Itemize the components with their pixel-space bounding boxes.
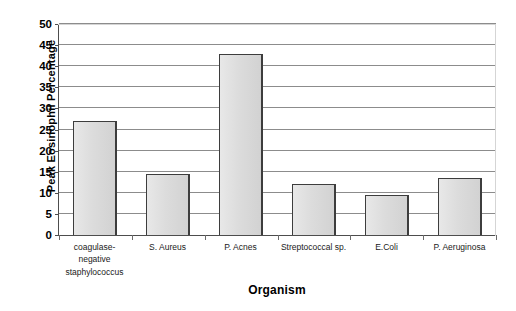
category-tick — [132, 235, 133, 240]
x-axis-label-line: P. Acnes — [205, 241, 276, 253]
x-axis-label-line: P. Aeruginosa — [424, 241, 495, 253]
bar[interactable] — [292, 184, 336, 235]
bar[interactable] — [365, 195, 409, 235]
category-tick — [278, 235, 279, 240]
bar-chart: Peak Eosinophil Percentage 0510152025303… — [0, 0, 516, 311]
category-tick — [59, 235, 60, 240]
x-axis-label: P. Aeruginosa — [423, 241, 496, 278]
plot-area: 05101520253035404550 — [58, 24, 496, 236]
x-axis-label-line: negative — [59, 253, 130, 265]
x-axis-label-line: S. Aureus — [132, 241, 203, 253]
bar-slot — [423, 24, 496, 235]
bars-group — [59, 24, 496, 235]
bar-slot — [350, 24, 423, 235]
x-axis-label: Streptococcal sp. — [277, 241, 350, 278]
category-tick — [350, 235, 351, 240]
bar[interactable] — [438, 178, 482, 235]
y-tick-label: 35 — [39, 81, 52, 93]
category-tick — [423, 235, 424, 240]
y-tick-label: 10 — [39, 187, 52, 199]
bar-slot — [59, 24, 132, 235]
y-tick-label: 15 — [39, 166, 52, 178]
bar[interactable] — [146, 174, 190, 235]
x-axis-label: P. Acnes — [204, 241, 277, 278]
bar[interactable] — [73, 121, 117, 235]
x-axis-label-line: Streptococcal sp. — [278, 241, 349, 253]
x-axis-label-line: coagulase- — [59, 241, 130, 253]
y-tick-label: 5 — [46, 208, 52, 220]
x-axis-label: S. Aureus — [131, 241, 204, 278]
category-tick — [205, 235, 206, 240]
x-axis-label: E.Coli — [350, 241, 423, 278]
x-axis-title: Organism — [58, 283, 496, 297]
bar-slot — [277, 24, 350, 235]
x-axis-labels: coagulase-negativestaphylococcusS. Aureu… — [58, 241, 496, 278]
category-tick — [496, 235, 497, 240]
x-axis-label-line: E.Coli — [351, 241, 422, 253]
y-tick-label: 25 — [39, 124, 52, 136]
y-tick-label: 40 — [39, 60, 52, 72]
x-axis-label: coagulase-negativestaphylococcus — [58, 241, 131, 278]
y-tick-label: 45 — [39, 39, 52, 51]
y-tick-label: 0 — [46, 229, 52, 241]
x-axis-label-line: staphylococcus — [59, 266, 130, 278]
y-tick-label: 30 — [39, 102, 52, 114]
y-tick-label: 20 — [39, 145, 52, 157]
y-tick-label: 50 — [39, 18, 52, 30]
bar-slot — [205, 24, 278, 235]
bar[interactable] — [219, 54, 263, 235]
bar-slot — [132, 24, 205, 235]
